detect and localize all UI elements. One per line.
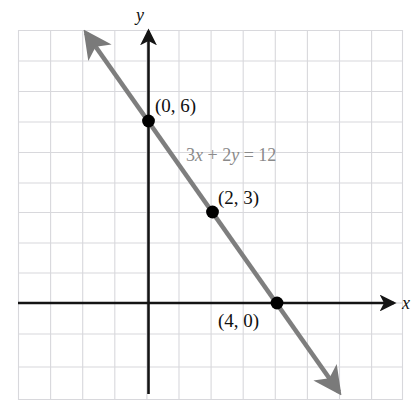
equation-var-y: y bbox=[231, 145, 239, 165]
point-label-4-0: (4, 0) bbox=[218, 311, 259, 330]
equation-equals: = bbox=[239, 145, 258, 165]
point-label-0-6: (0, 6) bbox=[155, 96, 196, 115]
equation-constant: 12 bbox=[258, 145, 276, 165]
graph-figure: y x (0, 6) (2, 3) (4, 0) 3x + 2y = 12 bbox=[0, 0, 419, 415]
equation-coef-x: 3 bbox=[186, 145, 195, 165]
point-0-6 bbox=[142, 115, 155, 128]
point-4-0 bbox=[271, 297, 284, 310]
coordinate-plane-svg bbox=[0, 0, 419, 415]
point-label-2-3: (2, 3) bbox=[218, 188, 259, 207]
y-axis-label: y bbox=[136, 6, 144, 24]
equation-var-x: x bbox=[195, 145, 203, 165]
equation-coef-y: 2 bbox=[222, 145, 231, 165]
equation-plus: + bbox=[203, 145, 222, 165]
point-2-3 bbox=[206, 206, 219, 219]
x-axis-label: x bbox=[402, 294, 410, 312]
equation-label: 3x + 2y = 12 bbox=[186, 146, 276, 164]
